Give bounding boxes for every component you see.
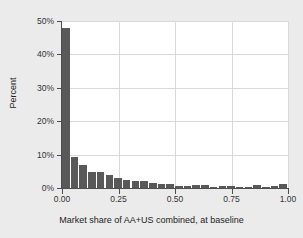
- bar: [140, 181, 148, 188]
- histogram-figure: 0%10%20%30%40%50% 0.000.250.500.751.00 M…: [0, 0, 303, 238]
- bar: [71, 157, 79, 188]
- gridline-vertical: [288, 21, 289, 188]
- y-tick: [57, 88, 62, 89]
- y-tick-label: 30%: [24, 84, 54, 92]
- bar: [123, 180, 131, 188]
- bar: [132, 181, 140, 188]
- bar: [79, 165, 87, 188]
- bar: [106, 175, 114, 188]
- bar: [62, 28, 70, 188]
- y-tick-label: 40%: [24, 50, 54, 58]
- y-tick: [57, 54, 62, 55]
- y-tick: [57, 155, 62, 156]
- x-axis-title: Market share of AA+US combined, at basel…: [0, 215, 303, 225]
- bar: [97, 172, 105, 188]
- x-tick-label: 0.75: [212, 195, 252, 204]
- plot-area: [62, 21, 288, 188]
- x-tick-label: 0.00: [42, 195, 82, 204]
- bar-series: [62, 21, 288, 188]
- bar: [114, 178, 122, 188]
- y-tick-label: 0%: [24, 184, 54, 192]
- y-axis-title: Percent: [8, 58, 18, 128]
- y-axis-line: [61, 21, 62, 189]
- y-tick: [57, 21, 62, 22]
- bar: [88, 172, 96, 188]
- y-tick: [57, 121, 62, 122]
- x-tick-label: 0.25: [99, 195, 139, 204]
- y-tick-label: 20%: [24, 117, 54, 125]
- y-tick-label: 10%: [24, 151, 54, 159]
- x-tick-label: 0.50: [155, 195, 195, 204]
- x-tick-label: 1.00: [268, 195, 303, 204]
- y-tick-label: 50%: [24, 17, 54, 25]
